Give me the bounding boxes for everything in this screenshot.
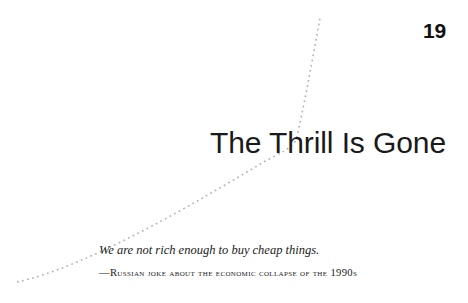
chapter-opening-page: 19 The Thrill Is Gone We are not rich en… [0,0,468,303]
chapter-title: The Thrill Is Gone [210,127,446,159]
epigraph-quote: We are not rich enough to buy cheap thin… [99,243,449,259]
chapter-number: 19 [423,20,446,41]
epigraph-block: We are not rich enough to buy cheap thin… [99,243,449,279]
epigraph-attribution: —Russian joke about the economic collaps… [99,266,449,279]
